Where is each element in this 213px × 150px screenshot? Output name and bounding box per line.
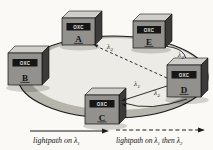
legend-solid-label: lightpath on λ1 xyxy=(33,136,80,146)
cube-side-b xyxy=(42,46,49,85)
legend: lightpath on λ1 lightpath on λ1 then λ2 xyxy=(30,128,205,146)
node-letter-a: A xyxy=(75,34,82,44)
node-cube-a: OXC A xyxy=(62,11,102,45)
node-letter-e: E xyxy=(146,37,152,47)
oxc-label-a: OXC xyxy=(73,25,84,30)
legend-dashed-label: lightpath on λ1 then λ2 xyxy=(116,136,183,146)
wdm-ring-figure: OXC A OXC B OXC E OXC D OXC xyxy=(0,0,213,150)
oxc-label-d: OXC xyxy=(179,73,190,78)
oxc-label-b: OXC xyxy=(20,61,31,66)
node-letter-d: D xyxy=(181,85,188,95)
oxc-label-c: OXC xyxy=(97,102,108,107)
node-letter-c: C xyxy=(99,113,106,123)
node-cube-b: OXC B xyxy=(8,46,49,85)
oxc-label-e: OXC xyxy=(144,28,155,33)
legend-dashed-arrowhead xyxy=(198,128,205,133)
node-letter-b: B xyxy=(22,73,28,83)
node-cube-c: OXC C xyxy=(85,88,126,124)
node-cube-d: OXC D xyxy=(167,58,208,97)
node-cube-e: OXC E xyxy=(133,14,172,48)
cube-side-d xyxy=(201,58,208,97)
